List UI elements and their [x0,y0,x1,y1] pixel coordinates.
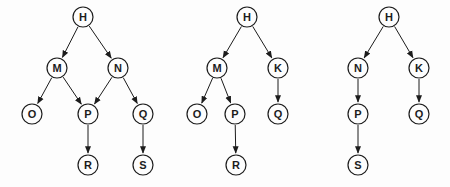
tree-1-node-O-label: O [28,108,37,120]
tree-1-edge-H-M [62,27,78,58]
tree-3: HNKPQS [348,7,429,175]
tree-1: HMNOPQRS [22,7,153,175]
tree-1-edge-N-Q [123,78,137,104]
tree-2-node-R-label: R [232,159,240,171]
tree-1-edge-H-N [89,26,111,58]
tree-3-node-N-label: N [354,62,362,74]
tree-2-edge-P-R [235,125,236,153]
tree-1-node-H-label: H [79,11,87,23]
tree-1-node-P-label: P [84,108,91,120]
tree-1-edge-M-P [63,77,81,104]
tree-2-edge-M-O [202,78,213,103]
tree-3-node-H-label: H [385,11,393,23]
tree-diagrams: HMNOPQRSHMKOPQRHNKPQS [0,0,450,187]
tree-2-node-H-label: H [243,11,251,23]
tree-3-node-P-label: P [354,108,361,120]
tree-3-node-S-label: S [354,159,361,171]
tree-1-node-R-label: R [84,159,92,171]
tree-2-node-M-label: M [212,62,221,74]
tree-1-edge-M-O [38,78,52,104]
tree-3-node-Q-label: Q [415,108,424,120]
tree-2-edge-H-M [223,26,241,57]
tree-2-edge-H-K [253,26,272,57]
tree-2-node-K-label: K [274,62,282,74]
diagram-canvas: HMNOPQRSHMKOPQRHNKPQS [0,0,450,187]
tree-3-edge-H-N [364,26,383,57]
tree-1-node-N-label: N [114,62,122,74]
tree-2-node-P-label: P [231,108,238,120]
tree-1-edge-N-P [95,77,112,104]
tree-2-node-O-label: O [193,108,202,120]
tree-3-node-K-label: K [415,62,423,74]
tree-1-node-M-label: M [52,62,61,74]
tree-2-node-Q-label: Q [274,108,283,120]
tree-3-edge-H-K [395,26,413,57]
tree-1-node-S-label: S [139,159,146,171]
tree-2: HMKOPQR [187,7,288,175]
tree-1-node-Q-label: Q [139,108,148,120]
tree-2-edge-M-P [221,78,231,103]
